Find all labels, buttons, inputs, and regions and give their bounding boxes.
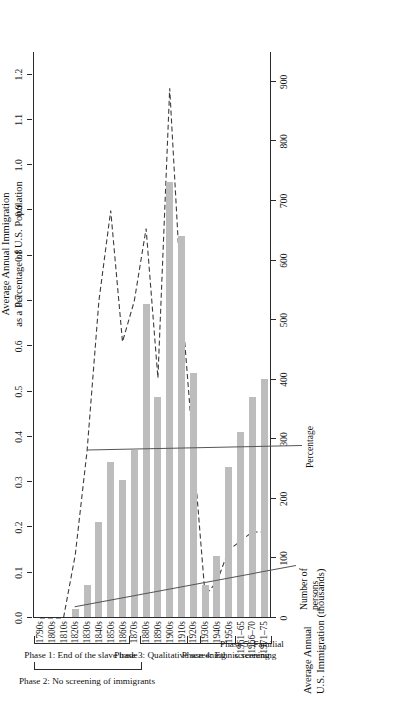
bar — [261, 379, 268, 617]
phase-label-line1: Phase 5: Familial — [220, 639, 284, 650]
thousands-tick-label: 700 — [279, 187, 289, 215]
percentage-tick-label: 0.7 — [14, 287, 24, 315]
thousands-tick-label: 500 — [279, 306, 289, 334]
bar — [225, 467, 232, 617]
thousands-tick-label: 200 — [279, 485, 289, 513]
thousands-tick-label: 400 — [279, 366, 289, 394]
figure-root: Average Annual Immigration as a Percenta… — [0, 0, 399, 704]
percentage-tick-label: 0.4 — [14, 423, 24, 451]
phase-label: Phase 2: No screening of immigrants — [19, 676, 155, 687]
percentage-tick-label: 0.1 — [14, 559, 24, 587]
percentage-tick-label: 0.2 — [14, 513, 24, 541]
phase-bracket — [34, 636, 130, 644]
annotation-number-of-persons: Number of persons — [298, 568, 320, 610]
percentage-tick — [27, 391, 32, 392]
top-axis-title-line1: Average Annual Immigration — [0, 104, 13, 404]
category-label: 1870s — [129, 621, 139, 643]
rotated-figure-canvas: Average Annual Immigration as a Percenta… — [0, 0, 399, 704]
percentage-tick-label: 0.8 — [14, 242, 24, 270]
percentage-tick — [27, 572, 32, 573]
bar — [131, 450, 138, 617]
thousands-tick — [271, 379, 276, 380]
thousands-tick-label: 900 — [279, 68, 289, 96]
thousands-tick — [271, 617, 276, 618]
bar — [143, 304, 150, 617]
percentage-tick — [27, 119, 32, 120]
percentage-tick-label: 0.0 — [14, 604, 24, 632]
bar — [84, 585, 91, 617]
percentage-tick-label: 1.0 — [14, 151, 24, 179]
thousands-tick-label: 600 — [279, 247, 289, 275]
thousands-tick — [271, 260, 276, 261]
percentage-tick-label: 0.6 — [14, 332, 24, 360]
thousands-tick — [271, 557, 276, 558]
annotation-number-line2: persons — [309, 568, 320, 610]
percentage-tick — [27, 617, 32, 618]
bar — [154, 397, 161, 617]
bar — [72, 609, 79, 617]
bar — [190, 373, 197, 617]
bar — [107, 462, 114, 617]
percentage-tick — [27, 164, 32, 165]
percentage-tick — [27, 526, 32, 527]
thousands-tick — [271, 438, 276, 439]
percentage-tick — [27, 436, 32, 437]
bar — [237, 432, 244, 617]
thousands-axis-line — [270, 52, 271, 618]
percentage-tick-label: 0.3 — [14, 468, 24, 496]
thousands-tick — [271, 81, 276, 82]
percentage-line-series — [34, 52, 270, 618]
percentage-tick-label: 0.9 — [14, 196, 24, 224]
percentage-tick — [27, 481, 32, 482]
percentage-axis-line — [33, 52, 34, 618]
percentage-tick — [27, 74, 32, 75]
thousands-tick-label: 800 — [279, 127, 289, 155]
phase-label-line2: screening — [220, 650, 284, 661]
percentage-tick — [27, 300, 32, 301]
bar — [249, 397, 256, 617]
bar — [213, 556, 220, 617]
plot-area: 01002003004005006007008009000.00.10.20.3… — [34, 52, 270, 618]
percentage-tick — [27, 209, 32, 210]
phase-label: Phase 5: Familialscreening — [220, 639, 284, 660]
phase-bracket — [34, 662, 142, 670]
percentage-tick — [27, 345, 32, 346]
thousands-tick — [271, 200, 276, 201]
bar — [166, 182, 173, 617]
category-axis-line — [34, 617, 270, 618]
bar — [178, 236, 185, 617]
percentage-tick-label: 0.5 — [14, 378, 24, 406]
thousands-tick — [271, 140, 276, 141]
phase-label-line1: Phase 2: No screening of immigrants — [19, 676, 155, 687]
thousands-tick-label: 0 — [279, 604, 289, 632]
percentage-tick-label: 1.2 — [14, 61, 24, 89]
thousands-tick — [271, 319, 276, 320]
annotation-percentage: Percentage — [304, 426, 315, 468]
percentage-tick — [27, 255, 32, 256]
bar — [202, 585, 209, 617]
thousands-tick-label: 300 — [279, 425, 289, 453]
annotation-number-line1: Number of — [298, 568, 309, 610]
percentage-tick-label: 1.1 — [14, 106, 24, 134]
thousands-tick — [271, 498, 276, 499]
